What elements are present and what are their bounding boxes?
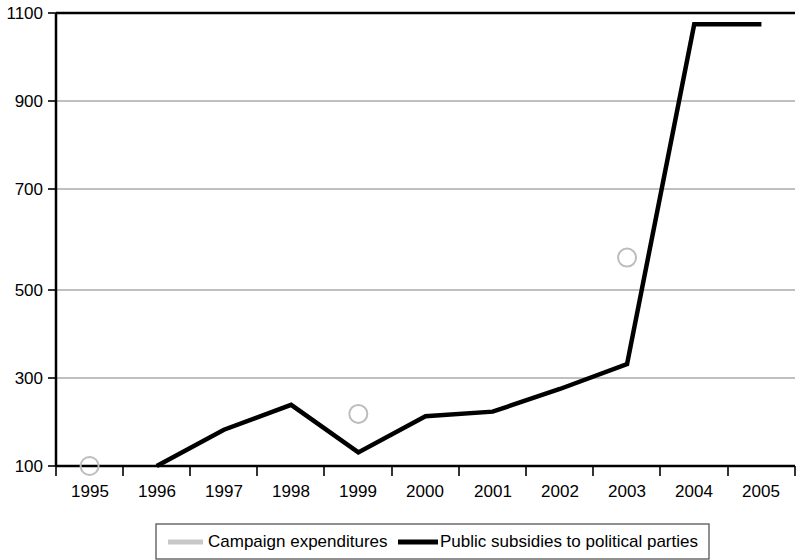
x-axis-ticks	[56, 466, 795, 476]
x-axis-tick-labels: 1995 1996 1997 1998 1999 2000 2001 2002 …	[71, 482, 780, 501]
series-line-public-subsidies	[157, 24, 762, 466]
chart-canvas: 1100 900 700 500 300 100 1995 1996 1	[0, 0, 801, 560]
x-tick-label: 2002	[541, 482, 579, 501]
legend-label-campaign-expenditures: Campaign expenditures	[208, 532, 388, 551]
series-marker	[349, 405, 367, 423]
y-tick-label: 900	[15, 92, 43, 111]
x-tick-label: 2001	[474, 482, 512, 501]
x-tick-label: 1995	[71, 482, 109, 501]
x-tick-label: 1997	[205, 482, 243, 501]
x-tick-label: 2004	[675, 482, 713, 501]
y-axis-tick-labels: 1100 900 700 500 300 100	[6, 4, 43, 476]
series-group	[81, 24, 762, 475]
y-tick-label: 500	[15, 281, 43, 300]
x-tick-label: 1999	[339, 482, 377, 501]
y-tick-label: 100	[15, 457, 43, 476]
x-tick-label: 2005	[742, 482, 780, 501]
series-marker	[618, 249, 636, 267]
y-tick-label: 300	[15, 369, 43, 388]
x-tick-label: 1996	[138, 482, 176, 501]
y-tick-label: 700	[15, 180, 43, 199]
x-tick-label: 2003	[608, 482, 646, 501]
series-marker	[81, 457, 99, 475]
x-tick-label: 1998	[272, 482, 310, 501]
y-tick-label: 1100	[6, 4, 43, 23]
gridlines	[56, 101, 795, 378]
legend: Campaign expenditures Public subsidies t…	[156, 524, 709, 559]
series-markers-campaign-expenditures	[81, 249, 636, 475]
line-chart: 1100 900 700 500 300 100 1995 1996 1	[0, 0, 801, 560]
x-tick-label: 2000	[406, 482, 444, 501]
legend-label-public-subsidies: Public subsidies to political parties	[440, 532, 698, 551]
